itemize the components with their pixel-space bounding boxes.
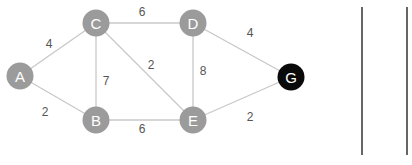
dividers-layer <box>362 7 407 155</box>
node-label: E <box>188 112 198 129</box>
node-label: D <box>188 15 199 32</box>
node-label: G <box>285 69 297 86</box>
edge-weight-c-b: 7 <box>103 74 110 88</box>
edge-weight-b-e: 6 <box>139 122 146 136</box>
node-label: A <box>15 68 25 85</box>
edge-weight-c-e: 2 <box>148 58 155 72</box>
edge-a-c <box>20 23 96 76</box>
node-e: E <box>180 107 207 134</box>
edge-weights-layer: 426728642 <box>42 5 254 136</box>
edge-c-e <box>96 23 193 120</box>
node-c: C <box>83 10 110 37</box>
node-d: D <box>180 10 207 37</box>
node-g: G <box>278 64 305 91</box>
edge-weight-d-g: 4 <box>247 26 254 40</box>
node-a: A <box>7 63 34 90</box>
edge-e-g <box>193 77 291 120</box>
node-b: B <box>83 107 110 134</box>
nodes-layer: ACDBEG <box>7 10 305 134</box>
edge-d-g <box>193 23 291 77</box>
graph-diagram: 426728642 ACDBEG <box>0 0 412 165</box>
edge-weight-c-d: 6 <box>139 5 146 19</box>
edge-weight-a-b: 2 <box>42 105 49 119</box>
edge-weight-e-g: 2 <box>247 110 254 124</box>
node-label: B <box>91 112 101 129</box>
node-label: C <box>91 15 102 32</box>
edge-weight-d-e: 8 <box>200 64 207 78</box>
edge-weight-a-c: 4 <box>46 37 53 51</box>
